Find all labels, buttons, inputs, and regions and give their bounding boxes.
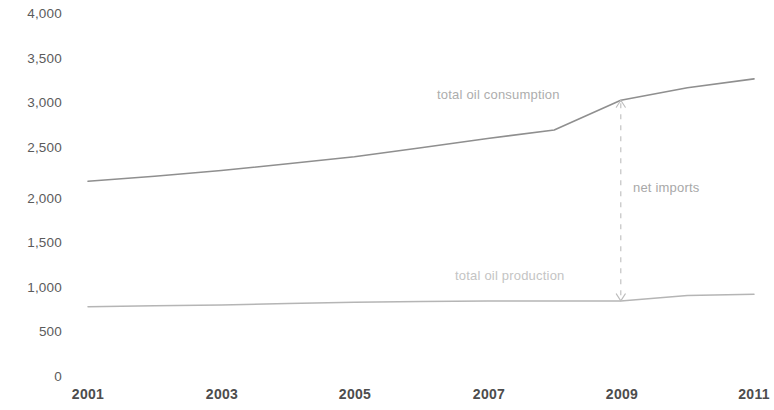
oil-chart: 4,000 3,500 3,000 2,500 2,000 1,500 1,00… bbox=[0, 0, 774, 410]
series-label-total-oil-production: total oil production bbox=[455, 269, 565, 282]
annotation-label-net-imports: net imports bbox=[633, 181, 700, 194]
line-total-oil-consumption bbox=[88, 79, 754, 181]
net-imports-annotation bbox=[616, 100, 625, 301]
line-total-oil-production bbox=[88, 294, 754, 307]
plot-area bbox=[0, 0, 774, 410]
series-label-total-oil-consumption: total oil consumption bbox=[437, 88, 560, 101]
